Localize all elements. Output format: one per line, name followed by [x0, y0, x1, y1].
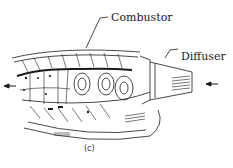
liner-wall [17, 69, 132, 76]
swirler-1 [74, 73, 90, 95]
liner-segments [20, 70, 70, 104]
inlet-arrow-icon [206, 82, 211, 86]
combustor-label: Combustor [111, 12, 173, 23]
combustor-diagram: Combustor Diffuser (c) [0, 0, 233, 168]
diffuser-wall [140, 56, 150, 104]
outlet-arrow-icon [4, 84, 9, 88]
swirler-2 [98, 73, 114, 95]
combustor-illustration [0, 0, 233, 168]
diffuser-hatching [172, 76, 190, 90]
diffuser-label: Diffuser [181, 51, 226, 62]
combustor-leader [86, 17, 108, 48]
figure-caption: (c) [84, 145, 95, 153]
swirler-3 [115, 76, 133, 100]
diffuser-leader [165, 49, 178, 58]
